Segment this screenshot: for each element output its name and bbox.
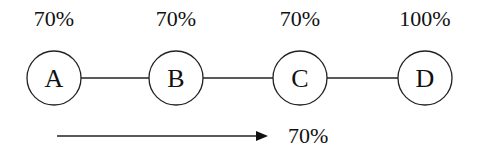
arrow-label: 70% (288, 125, 328, 147)
node-b-label: B (149, 66, 203, 92)
node-c-percent: 70% (260, 8, 340, 30)
node-c-label: C (273, 66, 327, 92)
node-b-percent: 70% (136, 8, 216, 30)
node-a-percent: 70% (14, 8, 94, 30)
node-d-percent: 100% (385, 8, 465, 30)
arrow-head-icon (256, 131, 268, 141)
node-d-label: D (398, 66, 452, 92)
node-a-label: A (27, 66, 81, 92)
